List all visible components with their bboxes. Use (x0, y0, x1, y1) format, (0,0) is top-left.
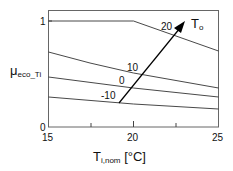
curve-to-minus-10 (49, 97, 219, 109)
chart: 20 10 0 -10 To 1 0 15 20 25 μeco_Ti Ti,n… (0, 0, 233, 171)
x-tick-label-20: 20 (127, 132, 139, 143)
x-tick-label-15: 15 (42, 132, 54, 143)
x-tick-label-25: 25 (212, 132, 224, 143)
curve-label-0: 0 (119, 75, 125, 86)
arrow-label: To (191, 16, 204, 32)
x-axis-label: Ti,nom [°C] (93, 149, 146, 165)
arrow-head-icon (174, 21, 185, 33)
curve-to-0 (49, 77, 219, 97)
y-tick-label-1: 1 (40, 16, 46, 27)
curve-label-minus-10: -10 (101, 90, 116, 101)
curve-label-10: 10 (127, 62, 139, 73)
y-axis-label: μeco_Ti (10, 63, 41, 79)
curve-label-20: 20 (161, 21, 173, 32)
